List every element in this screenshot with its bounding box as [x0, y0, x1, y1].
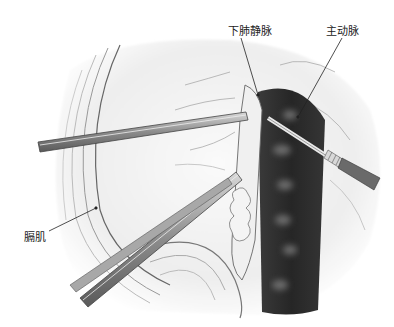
aorta [258, 89, 325, 315]
label-aorta: 主动脉 [326, 22, 359, 38]
label-inferior-pulmonary-vein: 下肺静脉 [228, 22, 272, 38]
illustration-canvas [0, 0, 394, 327]
thoracic-cavity [56, 39, 380, 318]
label-diaphragm: 膈肌 [24, 228, 46, 244]
